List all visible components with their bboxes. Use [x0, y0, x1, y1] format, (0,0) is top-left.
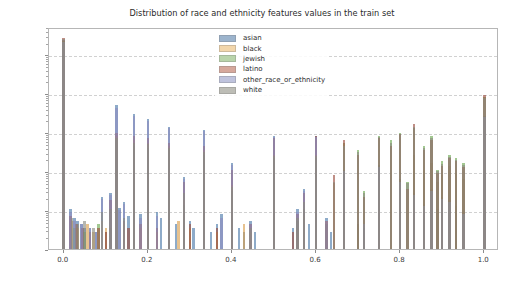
bar — [183, 193, 186, 250]
bar — [89, 228, 92, 250]
legend-swatch-icon — [219, 45, 236, 52]
x-tick-label: 1.0 — [478, 256, 489, 264]
bar — [123, 218, 126, 250]
x-tick-mark — [63, 250, 64, 253]
bar — [292, 232, 295, 250]
bar — [249, 228, 252, 250]
bar — [156, 216, 159, 250]
bar — [436, 171, 439, 250]
x-tick-label: 0.4 — [225, 256, 236, 264]
bar — [189, 224, 192, 250]
legend-item-label: black — [243, 45, 262, 53]
x-tick-label: 0.0 — [57, 256, 68, 264]
bar — [399, 134, 402, 250]
x-tick-mark — [483, 250, 484, 253]
bar — [413, 127, 416, 250]
bar — [105, 232, 108, 250]
legend-swatch-icon — [219, 55, 236, 62]
legend-item-label: other_race_or_ethnicity — [243, 76, 325, 84]
legend-item: asian — [219, 33, 325, 43]
bar — [462, 165, 465, 250]
bar — [115, 138, 118, 250]
page-title: Distribution of race and ethnicity featu… — [0, 8, 524, 18]
legend-swatch-icon — [219, 35, 236, 42]
bar — [62, 39, 65, 250]
bar — [76, 224, 79, 250]
x-tick-mark — [399, 250, 400, 253]
bar — [308, 224, 311, 250]
bar — [303, 202, 306, 250]
bar — [243, 224, 246, 250]
x-tick-label: 0.6 — [309, 256, 320, 264]
bar — [423, 148, 426, 250]
legend-swatch-icon — [219, 66, 236, 73]
bar — [455, 160, 458, 250]
legend-swatch-icon — [219, 76, 236, 83]
bar — [83, 221, 86, 250]
x-tick-mark — [231, 250, 232, 253]
bar — [118, 210, 121, 250]
bar — [390, 143, 393, 250]
bar — [97, 228, 100, 250]
bar — [168, 148, 171, 250]
bar — [80, 224, 83, 250]
legend-item: black — [219, 43, 325, 53]
legend-item-label: jewish — [243, 55, 265, 63]
legend-swatch-icon — [219, 87, 236, 94]
bar — [101, 212, 104, 250]
bar — [315, 156, 318, 250]
bar — [203, 152, 206, 250]
bar — [139, 218, 142, 250]
bar — [92, 228, 95, 250]
bar — [192, 228, 195, 250]
bar — [448, 157, 451, 250]
bar — [231, 187, 234, 250]
bar — [343, 146, 346, 250]
bar — [273, 156, 276, 250]
legend-item: latino — [219, 64, 325, 74]
bar — [430, 138, 433, 250]
legend-item: white — [219, 85, 325, 95]
bar — [254, 232, 257, 250]
legend-item: jewish — [219, 54, 325, 64]
bar — [483, 98, 486, 250]
bar — [147, 144, 150, 250]
bar — [378, 137, 381, 250]
bar — [333, 182, 336, 250]
legend-item: other_race_or_ethnicity — [219, 75, 325, 85]
bar — [357, 152, 360, 250]
bar — [133, 143, 136, 250]
x-tick-mark — [315, 250, 316, 253]
bar — [296, 218, 299, 250]
matplotlib-figure: Distribution of race and ethnicity featu… — [0, 0, 524, 284]
legend-item-label: white — [243, 86, 262, 94]
legend-item-label: latino — [243, 65, 263, 73]
bar — [238, 228, 241, 250]
y-tick-mark — [45, 250, 48, 251]
bar — [363, 193, 366, 250]
x-tick-mark — [147, 250, 148, 253]
bar — [216, 228, 219, 250]
chart-legend: asianblackjewishlatinoother_race_or_ethn… — [215, 31, 329, 97]
bar — [109, 209, 112, 250]
x-tick-label: 0.2 — [141, 256, 152, 264]
bar — [127, 228, 130, 250]
bar — [325, 221, 328, 250]
bar — [95, 232, 98, 250]
bar — [160, 218, 163, 250]
bar — [441, 164, 444, 250]
bar — [406, 183, 409, 250]
x-tick-label: 0.8 — [394, 256, 405, 264]
legend-item-label: asian — [243, 34, 262, 42]
bar — [71, 218, 74, 250]
bar — [177, 221, 180, 250]
bar — [220, 218, 223, 250]
bar — [210, 232, 213, 250]
